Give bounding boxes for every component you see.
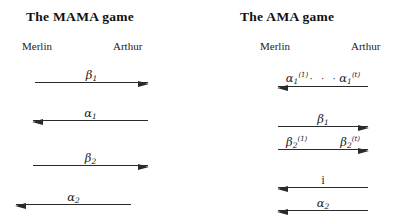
message-arrow-i-ama: i	[278, 169, 368, 191]
subscript: 2	[91, 157, 96, 166]
arrow-line	[278, 86, 368, 87]
panel-title-ama: The AMA game	[240, 9, 334, 25]
arrow-line	[278, 126, 368, 127]
symbol-last: α	[339, 71, 347, 85]
mama-game-panel: The MAMA game Merlin Arthur β1 α1 β2 α2	[0, 0, 205, 215]
message-arrow-beta2-seq-ama: β2(1) β2(t)	[278, 131, 368, 153]
arrow-head-left-icon	[277, 209, 288, 215]
symbol-first: β	[286, 135, 293, 149]
symbol: α	[84, 106, 92, 120]
arrow-head-right-icon	[358, 125, 369, 131]
message-label-beta1-mama: β1	[35, 70, 148, 82]
message-label-beta1-ama: β1	[278, 114, 368, 126]
superscript-first: (1)	[298, 71, 308, 79]
superscript-first: (1)	[297, 135, 307, 143]
arrow-head-left-icon	[277, 85, 288, 91]
subscript: 1	[324, 118, 329, 127]
message-label-beta2-last-ama: β2(t)	[340, 137, 360, 149]
party-label-merlin-ama: Merlin	[260, 40, 290, 52]
message-arrow-alpha1-seq-ama: α1(1)· · ·α1(t)	[278, 68, 368, 90]
party-label-arthur-mama: Arthur	[113, 40, 142, 52]
arrow-head-left-icon	[15, 203, 26, 209]
subscript-last: 2	[347, 141, 352, 150]
message-arrow-alpha2-ama: α2	[278, 192, 368, 214]
message-label-alpha1-mama: α1	[33, 108, 148, 120]
panel-title-mama: The MAMA game	[26, 9, 134, 25]
subscript: 1	[92, 112, 97, 121]
arrow-line	[278, 210, 368, 211]
message-label-alpha1-seq-ama: α1(1)· · ·α1(t)	[278, 73, 368, 85]
party-label-merlin-mama: Merlin	[22, 40, 52, 52]
ellipsis: · · ·	[308, 72, 339, 84]
arrow-head-left-icon	[277, 186, 288, 192]
symbol: α	[317, 196, 325, 210]
message-label-alpha2-ama: α2	[278, 198, 368, 210]
arrow-line	[33, 120, 148, 121]
party-label-arthur-ama: Arthur	[351, 40, 380, 52]
superscript-last: (t)	[352, 71, 360, 79]
message-arrow-beta1-ama: β1	[278, 108, 368, 130]
arrow-head-left-icon	[32, 119, 43, 125]
message-arrow-beta2-mama: β2	[33, 147, 148, 169]
symbol: i	[321, 174, 324, 186]
arrow-line	[16, 204, 131, 205]
symbol-first: α	[286, 71, 294, 85]
superscript-last: (t)	[352, 135, 360, 143]
message-label-alpha2-mama: α2	[16, 192, 131, 204]
subscript: 2	[75, 196, 80, 205]
subscript: 1	[92, 74, 97, 83]
symbol: α	[67, 190, 75, 204]
arrow-head-right-icon	[138, 81, 149, 87]
arrow-head-right-icon	[138, 164, 149, 170]
arrow-line	[278, 187, 368, 188]
ama-game-panel: The AMA game Merlin Arthur α1(1)· · ·α1(…	[205, 0, 410, 215]
message-label-i-ama: i	[278, 175, 368, 187]
message-arrow-beta1-mama: β1	[35, 64, 148, 86]
message-label-beta2-first-ama: β2(1)	[286, 137, 307, 149]
message-label-beta2-mama: β2	[33, 153, 148, 165]
symbol: β	[317, 112, 324, 126]
subscript: 2	[325, 202, 330, 211]
message-arrow-alpha1-mama: α1	[33, 102, 148, 124]
arrow-line	[278, 149, 368, 150]
message-arrow-alpha2-mama: α2	[16, 186, 131, 208]
symbol-last: β	[340, 135, 347, 149]
